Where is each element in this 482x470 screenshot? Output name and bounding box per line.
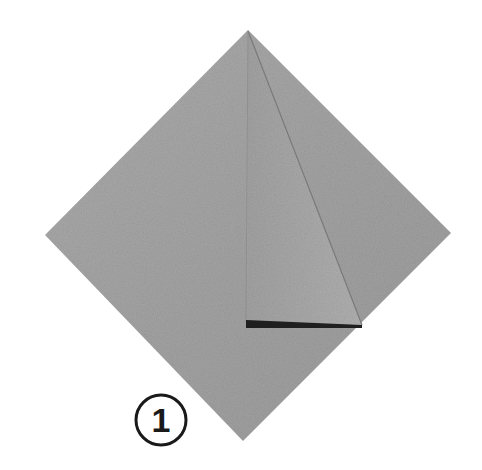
step-number-badge: 1 [133,392,189,448]
step-number: 1 [152,401,171,440]
origami-diagram [0,0,482,470]
